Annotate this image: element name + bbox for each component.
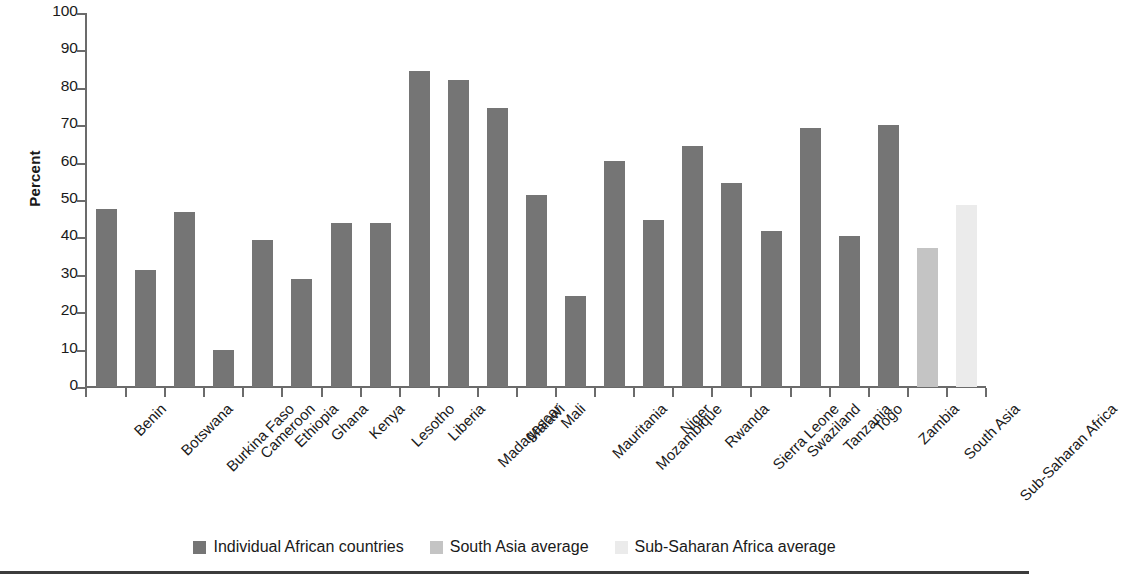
bar — [800, 128, 821, 387]
x-axis-tick-mark — [711, 388, 713, 397]
bar — [252, 240, 273, 387]
y-axis-tick-mark — [77, 275, 86, 277]
x-axis-tick-mark — [125, 388, 127, 397]
y-axis-tick-label: 80 — [18, 77, 78, 95]
x-axis-tick-mark — [790, 388, 792, 397]
x-axis-tick-label: Benin — [130, 400, 169, 439]
bar — [878, 125, 899, 387]
chart-legend: Individual African countriesSouth Asia a… — [0, 538, 1029, 556]
y-axis-tick-label: 40 — [18, 226, 78, 244]
x-axis-tick-mark — [85, 388, 87, 397]
y-axis-tick-mark — [77, 350, 86, 352]
x-axis-tick-mark — [321, 388, 323, 397]
legend-label: South Asia average — [450, 538, 589, 556]
bar — [682, 146, 703, 387]
bar — [956, 205, 977, 388]
bar — [448, 80, 469, 387]
x-axis-tick-mark — [985, 388, 987, 397]
x-axis-tick-label: Botswana — [177, 400, 236, 459]
bar — [409, 71, 430, 387]
legend-item: Individual African countries — [193, 538, 403, 556]
y-axis-tick-label: 20 — [18, 301, 78, 319]
y-axis-tick-mark — [77, 88, 86, 90]
x-axis-tick-mark — [203, 388, 205, 397]
x-axis-tick-mark — [672, 388, 674, 397]
x-axis-tick-mark — [868, 388, 870, 397]
x-axis-tick-mark — [164, 388, 166, 397]
x-axis-tick-mark — [946, 388, 948, 397]
y-axis-tick-label: 0 — [18, 376, 78, 394]
bar — [135, 270, 156, 387]
x-axis-tick-label: Sub-Saharan Africa — [1017, 400, 1121, 504]
legend-swatch-icon — [430, 541, 443, 554]
y-axis-tick-label: 100 — [18, 2, 78, 20]
bar — [917, 248, 938, 388]
bar — [370, 223, 391, 387]
x-axis-tick-mark — [477, 388, 479, 397]
bar — [487, 108, 508, 387]
x-axis-tick-label: Zambia — [915, 400, 962, 447]
y-axis-tick-label: 90 — [18, 39, 78, 57]
bar — [761, 231, 782, 387]
x-axis-tick-mark — [281, 388, 283, 397]
x-axis-tick-label: South Asia — [960, 400, 1023, 463]
x-axis-tick-mark — [750, 388, 752, 397]
x-axis-tick-label: Kenya — [366, 400, 408, 442]
bar — [331, 223, 352, 387]
x-axis-tick-mark — [242, 388, 244, 397]
legend-item: South Asia average — [430, 538, 589, 556]
x-axis-tick-label: Rwanda — [721, 400, 772, 451]
bar — [213, 350, 234, 387]
y-axis-tick-mark — [77, 200, 86, 202]
legend-item: Sub-Saharan Africa average — [615, 538, 836, 556]
x-axis-tick-mark — [516, 388, 518, 397]
plot-area — [87, 13, 986, 387]
y-axis-tick-mark — [77, 312, 86, 314]
y-axis-tick-label: 50 — [18, 189, 78, 207]
legend-swatch-icon — [193, 541, 206, 554]
x-axis-tick-mark — [633, 388, 635, 397]
y-axis-tick-mark — [77, 237, 86, 239]
x-axis-tick-mark — [360, 388, 362, 397]
y-axis-tick-mark — [77, 50, 86, 52]
bar — [604, 161, 625, 387]
x-axis-tick-mark — [399, 388, 401, 397]
y-axis-tick-mark — [77, 163, 86, 165]
y-axis-title: Percent — [26, 119, 43, 239]
bar — [721, 183, 742, 387]
bar — [643, 220, 664, 387]
x-axis-tick-mark — [907, 388, 909, 397]
legend-label: Sub-Saharan Africa average — [635, 538, 836, 556]
legend-swatch-icon — [615, 541, 628, 554]
x-axis-tick-mark — [829, 388, 831, 397]
bar — [291, 279, 312, 387]
y-axis-tick-label: 60 — [18, 152, 78, 170]
y-axis-tick-mark — [77, 125, 86, 127]
y-axis-tick-label: 10 — [18, 339, 78, 357]
bar — [174, 212, 195, 387]
y-axis-tick-mark — [77, 13, 86, 15]
x-axis-tick-mark — [438, 388, 440, 397]
legend-label: Individual African countries — [213, 538, 403, 556]
bar — [565, 296, 586, 387]
y-axis-tick-label: 30 — [18, 264, 78, 282]
bar — [96, 209, 117, 387]
bar — [839, 236, 860, 387]
y-axis-tick-label: 70 — [18, 114, 78, 132]
bar — [526, 195, 547, 387]
x-axis-tick-mark — [555, 388, 557, 397]
x-axis-tick-mark — [594, 388, 596, 397]
